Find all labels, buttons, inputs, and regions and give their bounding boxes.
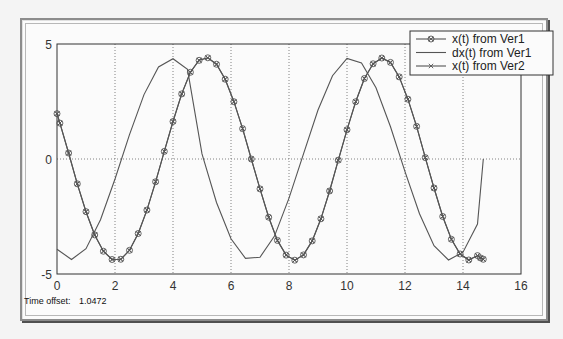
- y-tick-label: 5: [45, 38, 52, 52]
- legend-label: x(t) from Ver2: [452, 59, 525, 73]
- y-tick-label: 0: [45, 153, 52, 167]
- x-tick-label: 16: [514, 279, 528, 293]
- time-offset-value: 1.0472: [79, 296, 107, 306]
- x-tick-label: 10: [340, 279, 354, 293]
- x-tick-label: 14: [456, 279, 470, 293]
- x-tick-label: 0: [54, 279, 61, 293]
- time-offset-label: Time offset:: [24, 296, 71, 306]
- x-tick-label: 8: [286, 279, 293, 293]
- x-tick-label: 4: [170, 279, 177, 293]
- legend-label: dx(t) from Ver1: [452, 46, 532, 60]
- x-tick-label: 2: [112, 279, 119, 293]
- y-tick-label: -5: [41, 268, 52, 282]
- axis-ticks: 0246810121416-505: [41, 38, 528, 293]
- x-tick-label: 6: [228, 279, 235, 293]
- legend-label: x(t) from Ver1: [452, 32, 525, 46]
- status-bar: Time offset: 1.0472: [24, 296, 113, 306]
- line-chart: 0246810121416-505 x(t) from Ver1dx(t) fr…: [0, 0, 563, 339]
- legend: x(t) from Ver1dx(t) from Ver1x(t) from V…: [410, 31, 553, 75]
- x-tick-label: 12: [398, 279, 412, 293]
